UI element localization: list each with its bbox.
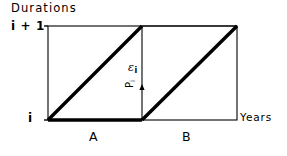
p-annotation: Pi: [125, 80, 137, 88]
p-subscript: i: [128, 80, 137, 82]
x-axis-label: Years: [240, 112, 272, 123]
region-label-b: B: [182, 131, 191, 144]
ramp-region-b: [142, 26, 237, 120]
chart-title: Durations: [11, 3, 77, 15]
p-symbol: P: [124, 82, 135, 88]
y-axis-top-tick-label: i + 1: [11, 20, 45, 32]
diagram-root: Durations i + 1 i Years A B εi Pi: [0, 0, 287, 156]
epsilon-annotation: εi: [128, 62, 137, 75]
epsilon-subscript: i: [134, 66, 137, 75]
region-label-a: A: [89, 131, 98, 144]
p-measure-arrowhead: [139, 84, 144, 90]
y-axis-bottom-tick-label: i: [28, 112, 32, 124]
